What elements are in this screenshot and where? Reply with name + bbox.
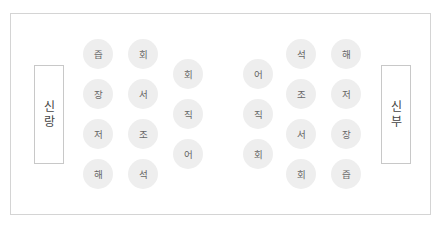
groom-box: 신 랑 [34, 65, 64, 164]
seat-circle[interactable]: 즙 [331, 159, 361, 189]
seat-circle[interactable]: 저 [331, 79, 361, 109]
seat-circle[interactable]: 해 [83, 159, 113, 189]
seat-circle[interactable]: 석 [128, 159, 158, 189]
seat-circle[interactable]: 회 [173, 59, 203, 89]
seat-circle[interactable]: 석 [286, 39, 316, 69]
seat-circle[interactable]: 해 [331, 39, 361, 69]
seat-circle[interactable]: 회 [128, 39, 158, 69]
seat-circle[interactable]: 저 [83, 119, 113, 149]
bride-label-char-1: 신 [391, 100, 402, 115]
seat-circle[interactable]: 직 [243, 99, 273, 129]
seat-circle[interactable]: 서 [128, 79, 158, 109]
seat-circle[interactable]: 즙 [83, 39, 113, 69]
seat-circle[interactable]: 어 [173, 139, 203, 169]
seat-circle[interactable]: 장 [83, 79, 113, 109]
seat-circle[interactable]: 직 [173, 99, 203, 129]
groom-label-char-1: 신 [44, 100, 55, 115]
bride-box: 신 부 [381, 65, 411, 164]
seat-circle[interactable]: 서 [286, 119, 316, 149]
seat-circle[interactable]: 회 [243, 139, 273, 169]
seating-frame [10, 13, 431, 215]
seat-circle[interactable]: 조 [286, 79, 316, 109]
seat-circle[interactable]: 어 [243, 59, 273, 89]
groom-label-char-2: 랑 [44, 115, 55, 130]
seat-circle[interactable]: 회 [286, 159, 316, 189]
bride-label-char-2: 부 [391, 115, 402, 130]
seat-circle[interactable]: 조 [128, 119, 158, 149]
seat-circle[interactable]: 장 [331, 119, 361, 149]
